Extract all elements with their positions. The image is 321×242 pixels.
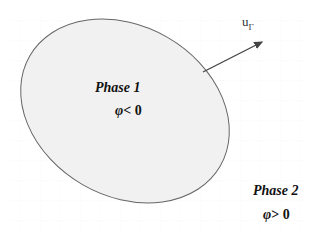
- phase1-condition: φ< 0: [115, 103, 142, 119]
- phase2-condition: φ> 0: [263, 207, 290, 223]
- diagram-canvas: [0, 0, 321, 242]
- phase1-label: Phase 1: [95, 80, 141, 96]
- interface-velocity-label: uΓ: [242, 14, 254, 32]
- phase2-label: Phase 2: [253, 183, 299, 199]
